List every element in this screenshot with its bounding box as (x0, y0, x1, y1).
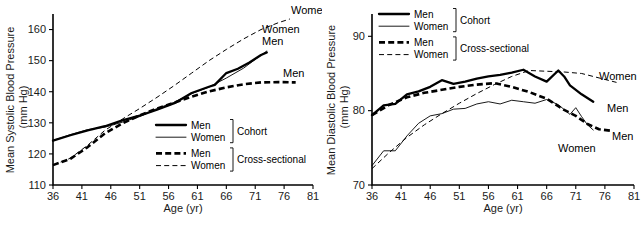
systolic-y-axis-title-line1: Mean Systolic Blood Pressure (4, 27, 16, 174)
diastolic-series-label-cross_sectional_men: Men (612, 130, 633, 142)
diastolic-chart-svg: 70809036414651566166717681Age (yr)Mean D… (322, 0, 644, 229)
systolic-legend-bracket-cross-sectional (230, 148, 233, 171)
diastolic-legend-group-label-cross-sectional: Cross-sectional (460, 43, 529, 54)
systolic-series-label-cohort_women: Women (262, 23, 300, 35)
systolic-series-label-cross_sectional_women: Women (291, 4, 322, 16)
diastolic-series-label-cohort_men: Men (607, 102, 628, 114)
systolic-ytick-label: 110 (28, 179, 46, 191)
systolic-series-label-text: Women (262, 23, 300, 35)
diastolic-xtick-label: 76 (599, 190, 611, 202)
diastolic-xtick-label: 41 (395, 190, 407, 202)
diastolic-legend-label-women: Women (414, 21, 448, 32)
systolic-series-cross_sectional_men (53, 82, 296, 165)
systolic-xtick-label: 71 (249, 190, 261, 202)
diastolic-ytick-label: 90 (353, 30, 365, 42)
systolic-legend-entry-cohort-men: Men (156, 120, 210, 131)
diastolic-legend-entry-cohort-men: Men (379, 9, 433, 20)
systolic-xtick-label: 46 (105, 190, 117, 202)
systolic-legend-entry-cohort-women: Women (156, 132, 225, 143)
diastolic-series-label-cross_sectional_women: Women (599, 70, 637, 82)
systolic-xtick-label: 51 (134, 190, 146, 202)
systolic-chart-panel: 11012013014015016036414651566166717681Ag… (0, 0, 322, 229)
systolic-xtick-label: 66 (220, 190, 232, 202)
diastolic-y-axis-title-line2: (mm Hg) (338, 86, 350, 129)
systolic-series-label-cohort_men: Men (262, 35, 283, 47)
systolic-xtick-label: 81 (307, 190, 319, 202)
diastolic-legend-entry-cross-sectional-women: Women (379, 49, 448, 60)
diastolic-xtick-label: 51 (453, 190, 465, 202)
systolic-xtick-label: 36 (47, 190, 59, 202)
systolic-ytick-label: 130 (28, 117, 46, 129)
diastolic-ytick-label: 70 (353, 179, 365, 191)
diastolic-xtick-label: 36 (366, 190, 378, 202)
systolic-legend-entry-cross-sectional-women: Women (156, 160, 225, 171)
diastolic-ytick-label: 80 (353, 104, 365, 116)
systolic-series-cohort_women (53, 51, 267, 141)
diastolic-legend-entry-cohort-women: Women (379, 21, 448, 32)
systolic-ytick-label: 120 (28, 148, 46, 160)
systolic-series-label-cross_sectional_men: Men (283, 67, 304, 79)
systolic-legend-label-men: Men (191, 148, 210, 159)
diastolic-series-label-cohort_women: Women (558, 142, 596, 154)
diastolic-axis-lines (372, 14, 634, 185)
diastolic-xtick-label: 61 (511, 190, 523, 202)
diastolic-legend-label-men: Men (414, 37, 433, 48)
systolic-legend-entry-cross-sectional-men: Men (156, 148, 210, 159)
systolic-series-cross_sectional_women (53, 19, 290, 165)
systolic-series-label-text: Women (291, 4, 322, 16)
diastolic-xtick-label: 46 (424, 190, 436, 202)
diastolic-legend-label-men: Men (414, 9, 433, 20)
blood-pressure-figure: 11012013014015016036414651566166717681Ag… (0, 0, 644, 229)
diastolic-legend-bracket-cohort (453, 9, 456, 32)
systolic-xtick-label: 41 (76, 190, 88, 202)
systolic-series-cohort_men (53, 53, 267, 141)
diastolic-legend-label-women: Women (414, 49, 448, 60)
diastolic-series-label-text: Men (607, 102, 628, 114)
systolic-legend-label-women: Women (191, 160, 225, 171)
diastolic-y-axis-title-line1: Mean Diastolic Blood Pressure (325, 25, 337, 175)
systolic-ytick-label: 140 (28, 86, 46, 98)
systolic-ytick-label: 160 (28, 23, 46, 35)
systolic-x-axis-title: Age (yr) (163, 202, 202, 214)
diastolic-series-label-text: Men (612, 130, 633, 142)
systolic-ytick-label: 150 (28, 54, 46, 66)
diastolic-chart-panel: 70809036414651566166717681Age (yr)Mean D… (322, 0, 644, 229)
systolic-y-axis-title-line2: (mm Hg) (17, 86, 29, 129)
diastolic-legend-bracket-cross-sectional (453, 37, 456, 60)
diastolic-series-label-text: Women (599, 70, 637, 82)
diastolic-series-label-text: Women (558, 142, 596, 154)
diastolic-xtick-label: 66 (541, 190, 553, 202)
systolic-xtick-label: 56 (162, 190, 174, 202)
systolic-chart-svg: 11012013014015016036414651566166717681Ag… (0, 0, 322, 229)
diastolic-xtick-label: 81 (628, 190, 640, 202)
systolic-series-label-text: Men (283, 67, 304, 79)
systolic-legend-label-men: Men (191, 120, 210, 131)
systolic-legend-group-label-cohort: Cohort (237, 126, 267, 137)
diastolic-xtick-label: 71 (570, 190, 582, 202)
systolic-xtick-label: 61 (191, 190, 203, 202)
diastolic-series-cohort_women (372, 100, 593, 166)
diastolic-xtick-label: 56 (482, 190, 494, 202)
systolic-legend-group-label-cross-sectional: Cross-sectional (237, 154, 306, 165)
systolic-legend-bracket-cohort (230, 120, 233, 143)
systolic-xtick-label: 76 (278, 190, 290, 202)
diastolic-legend-group-label-cohort: Cohort (460, 15, 490, 26)
diastolic-x-axis-title: Age (yr) (483, 202, 522, 214)
systolic-legend-label-women: Women (191, 132, 225, 143)
diastolic-legend-entry-cross-sectional-men: Men (379, 37, 433, 48)
systolic-series-label-text: Men (262, 35, 283, 47)
